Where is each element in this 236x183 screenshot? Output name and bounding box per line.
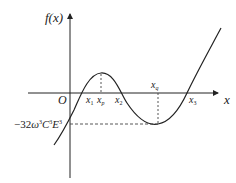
- xp-label: xp: [96, 94, 104, 106]
- x2-label: x2: [114, 94, 122, 106]
- x3-label: x3: [188, 94, 196, 106]
- x-axis-label: x: [223, 92, 230, 107]
- function-plot: f(x) x O x1 xp x2 xq x3 −32ω3C3E3: [0, 0, 236, 183]
- min-value-label: −32ω3C3E3: [14, 118, 62, 130]
- xq-label: xq: [150, 79, 158, 91]
- x1-label: x1: [85, 94, 93, 106]
- function-curve: [54, 28, 221, 145]
- origin-label: O: [58, 93, 67, 107]
- y-axis-label: f(x): [45, 10, 63, 25]
